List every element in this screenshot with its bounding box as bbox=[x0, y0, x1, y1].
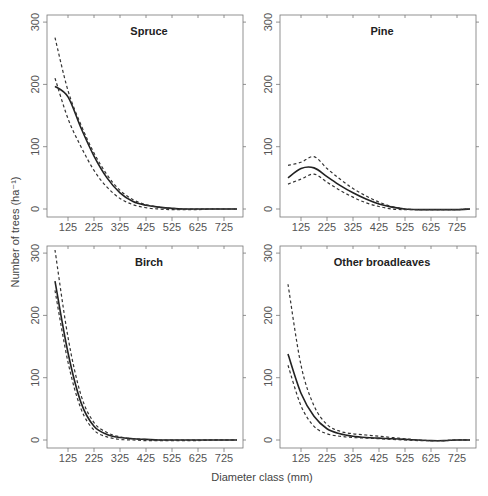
panel-pine: 1252253254255256257250100200300Pine bbox=[262, 13, 479, 233]
y-tick-label: 100 bbox=[262, 138, 274, 156]
y-tick-label: 200 bbox=[262, 75, 274, 93]
confidence-bound-line bbox=[288, 365, 470, 440]
x-tick-label: 325 bbox=[344, 452, 362, 464]
estimate-line bbox=[55, 281, 237, 440]
x-tick-label: 525 bbox=[396, 221, 414, 233]
confidence-bound-line bbox=[55, 78, 237, 209]
y-tick-label: 0 bbox=[262, 206, 274, 212]
x-tick-label: 725 bbox=[215, 221, 233, 233]
x-tick-label: 125 bbox=[292, 221, 310, 233]
y-tick-label: 0 bbox=[29, 437, 41, 443]
y-tick-label: 0 bbox=[29, 206, 41, 212]
y-tick-label: 300 bbox=[262, 13, 274, 31]
x-tick-label: 725 bbox=[448, 221, 466, 233]
confidence-bound-line bbox=[55, 250, 237, 440]
confidence-bound-line bbox=[288, 157, 470, 210]
small-multiples-line-chart: 1252253254255256257250100200300Spruce125… bbox=[0, 0, 488, 496]
panel-title: Pine bbox=[370, 25, 393, 37]
x-tick-label: 525 bbox=[396, 452, 414, 464]
x-tick-label: 725 bbox=[448, 452, 466, 464]
x-tick-label: 625 bbox=[189, 221, 207, 233]
y-tick-label: 300 bbox=[262, 244, 274, 262]
estimate-line bbox=[288, 167, 470, 210]
plot-frame bbox=[280, 246, 476, 448]
x-tick-label: 525 bbox=[163, 452, 181, 464]
x-tick-label: 325 bbox=[111, 221, 129, 233]
x-tick-label: 625 bbox=[422, 452, 440, 464]
x-tick-label: 425 bbox=[370, 221, 388, 233]
x-tick-label: 125 bbox=[59, 452, 77, 464]
x-tick-label: 625 bbox=[189, 452, 207, 464]
x-tick-label: 325 bbox=[344, 221, 362, 233]
x-tick-label: 425 bbox=[370, 452, 388, 464]
y-tick-label: 0 bbox=[262, 437, 274, 443]
y-tick-label: 300 bbox=[29, 13, 41, 31]
x-tick-label: 225 bbox=[85, 221, 103, 233]
y-tick-label: 100 bbox=[262, 369, 274, 387]
panel-title: Other broadleaves bbox=[334, 256, 431, 268]
y-tick-label: 200 bbox=[29, 306, 41, 324]
x-tick-label: 425 bbox=[137, 221, 155, 233]
x-tick-label: 225 bbox=[318, 221, 336, 233]
estimate-line bbox=[55, 86, 237, 209]
confidence-bound-line bbox=[55, 38, 237, 209]
x-tick-label: 225 bbox=[318, 452, 336, 464]
y-tick-label: 100 bbox=[29, 369, 41, 387]
x-axis-title: Diameter class (mm) bbox=[211, 471, 312, 483]
panel-title: Spruce bbox=[130, 25, 167, 37]
y-tick-label: 300 bbox=[29, 244, 41, 262]
panel-title: Birch bbox=[135, 256, 163, 268]
plot-frame bbox=[280, 15, 476, 217]
panel-birch: 1252253254255256257250100200300Birch bbox=[29, 244, 246, 464]
x-tick-label: 425 bbox=[137, 452, 155, 464]
plot-frame bbox=[47, 246, 243, 448]
x-tick-label: 625 bbox=[422, 221, 440, 233]
panel-other-broadleaves: 1252253254255256257250100200300Other bro… bbox=[262, 244, 479, 464]
x-tick-label: 725 bbox=[215, 452, 233, 464]
x-tick-label: 125 bbox=[292, 452, 310, 464]
x-tick-label: 125 bbox=[59, 221, 77, 233]
y-tick-label: 200 bbox=[262, 306, 274, 324]
y-tick-label: 200 bbox=[29, 75, 41, 93]
x-tick-label: 325 bbox=[111, 452, 129, 464]
y-axis-title: Number of trees (ha⁻¹) bbox=[9, 177, 21, 288]
confidence-bound-line bbox=[55, 290, 237, 440]
y-tick-label: 100 bbox=[29, 138, 41, 156]
x-tick-label: 525 bbox=[163, 221, 181, 233]
x-tick-label: 225 bbox=[85, 452, 103, 464]
panel-spruce: 1252253254255256257250100200300Spruce bbox=[29, 13, 246, 233]
